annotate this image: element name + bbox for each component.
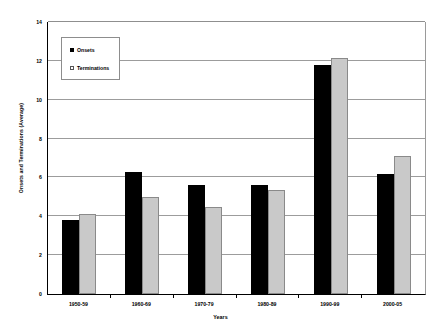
- bar-onsets: [377, 174, 394, 294]
- bar-terminations: [142, 197, 159, 294]
- y-tick-label: 14: [26, 19, 42, 25]
- bar-onsets: [62, 220, 79, 294]
- x-tick-label: 1960-69: [132, 301, 151, 308]
- x-tick-label: 2000-05: [383, 301, 402, 308]
- x-tick-mark: [110, 295, 111, 298]
- bar-terminations: [205, 207, 222, 294]
- x-tick-label: 1990-99: [320, 301, 339, 308]
- x-tick-label: 1980-89: [257, 301, 276, 308]
- bar-onsets: [314, 65, 331, 294]
- bar-terminations: [268, 190, 285, 294]
- y-tick-label: 10: [26, 97, 42, 103]
- bar-chart: Onsets and Terminations (Average) 024681…: [0, 0, 441, 328]
- x-tick-label: 1970-79: [195, 301, 214, 308]
- legend: Onsets Terminations: [61, 37, 120, 80]
- y-tick-label: 4: [26, 213, 42, 219]
- y-tick-label: 12: [26, 58, 42, 64]
- legend-item-terminations: Terminations: [70, 65, 109, 71]
- y-tick-label: 2: [26, 252, 42, 258]
- y-axis-ticks: 02468101214: [26, 22, 42, 295]
- legend-label: Onsets: [77, 47, 95, 53]
- y-tick-label: 0: [26, 291, 42, 297]
- bar-terminations: [331, 58, 348, 294]
- x-tick-label: 1950-59: [69, 301, 88, 308]
- open-square-icon: [70, 66, 74, 70]
- x-axis-title: Years: [0, 313, 441, 321]
- legend-label: Terminations: [77, 65, 109, 71]
- bar-terminations: [79, 214, 96, 294]
- x-tick-mark: [173, 295, 174, 298]
- x-tick-mark: [361, 295, 362, 298]
- filled-square-icon: [70, 48, 74, 52]
- y-tick-label: 6: [26, 174, 42, 180]
- bar-onsets: [188, 185, 205, 294]
- x-tick-mark: [236, 295, 237, 298]
- bar-terminations: [394, 156, 411, 294]
- bar-onsets: [125, 172, 142, 294]
- x-tick-mark: [298, 295, 299, 298]
- x-axis-ticks: 1950-591960-691970-791980-891990-992000-…: [47, 295, 426, 313]
- y-tick-label: 8: [26, 136, 42, 142]
- legend-item-onsets: Onsets: [70, 47, 95, 53]
- bar-onsets: [251, 185, 268, 294]
